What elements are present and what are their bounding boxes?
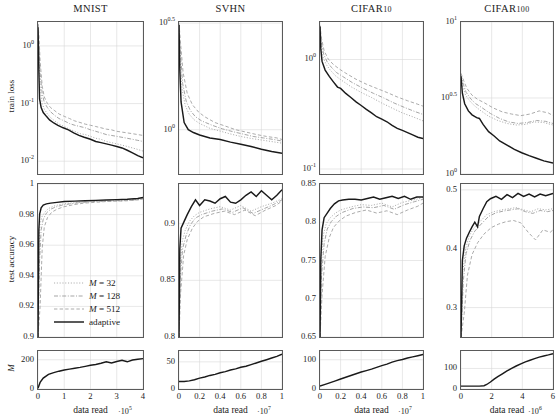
series-dashed xyxy=(179,23,282,139)
series-dashed xyxy=(320,203,423,337)
plot-cifar100-batch-size xyxy=(460,350,554,390)
legend-label-2: M = 512 xyxy=(89,304,120,314)
plot-canvas-svhn-train-loss xyxy=(179,22,282,174)
column-title-svhn: SVHN xyxy=(178,3,283,14)
plot-svhn-test-accuracy xyxy=(178,183,283,338)
series-solid xyxy=(179,354,282,381)
plot-canvas-cifar100-test-accuracy xyxy=(461,184,553,337)
ytick-mnist-train-loss: 100 xyxy=(1,40,34,50)
legend-label-3: adaptive xyxy=(89,317,120,327)
series-solid xyxy=(320,355,423,387)
series-dashdot xyxy=(179,25,282,141)
ytick-cifar100-train-loss: 100.5 xyxy=(424,92,457,102)
ytick-cifar100-train-loss: 101 xyxy=(424,16,457,26)
ytick-cifar10-test-accuracy: 0.7 xyxy=(283,293,316,303)
xaxis-label-cifar100-batch-size: data read xyxy=(454,405,560,415)
xtick-cifar100-batch-size: 4 xyxy=(510,391,534,401)
series-dotted xyxy=(179,25,282,143)
xtick-cifar100-batch-size: 0 xyxy=(449,391,473,401)
series-dashed xyxy=(179,201,282,337)
ylabel-train-loss: train loss xyxy=(6,56,16,136)
series-dotted xyxy=(461,208,553,337)
legend-entry-2: M = 512 xyxy=(54,302,120,315)
ytick-cifar10-batch-size: 100 xyxy=(283,354,316,364)
legend-label-1: M = 128 xyxy=(89,291,120,301)
ytick-cifar10-test-accuracy: 0.65 xyxy=(283,331,316,341)
ylabel-test-accuracy: test accuracy xyxy=(6,219,16,299)
plot-cifar10-test-accuracy xyxy=(319,183,424,338)
ytick-cifar10-train-loss: 10-1 xyxy=(283,163,316,173)
xtick-mnist-batch-size: 0 xyxy=(26,391,50,401)
plot-canvas-cifar100-batch-size xyxy=(461,351,553,389)
legend-entry-1: M = 128 xyxy=(54,289,120,302)
plot-canvas-cifar10-batch-size xyxy=(320,351,423,389)
ytick-cifar10-test-accuracy: 0.8 xyxy=(283,216,316,226)
xaxis-exponent-mnist-batch-size: ·105 xyxy=(118,407,132,416)
legend-entry-3: adaptive xyxy=(54,315,120,328)
legend-entry-0: M = 32 xyxy=(54,276,120,289)
legend-key-dashdot xyxy=(54,292,84,300)
series-dashdot xyxy=(179,200,282,337)
ytick-mnist-test-accuracy: 0.98 xyxy=(1,209,34,219)
series-solid xyxy=(320,196,423,337)
column-title-cifar100: CIFAR100 xyxy=(460,3,554,14)
plot-canvas-svhn-test-accuracy xyxy=(179,184,282,337)
series-dashed xyxy=(320,25,423,106)
plot-canvas-svhn-batch-size xyxy=(179,351,282,389)
ytick-cifar100-train-loss: 100 xyxy=(424,168,457,178)
series-dotted xyxy=(461,75,553,125)
series-dotted xyxy=(179,199,282,337)
plot-canvas-cifar10-train-loss xyxy=(320,22,423,174)
ytick-svhn-test-accuracy: 0.85 xyxy=(142,274,175,284)
ytick-svhn-batch-size: 50 xyxy=(142,356,175,366)
xaxis-exponent-svhn-batch-size: ·107 xyxy=(257,407,271,416)
ytick-cifar100-test-accuracy: 0.3 xyxy=(424,302,457,312)
ytick-svhn-train-loss: 100 xyxy=(142,124,175,134)
plot-cifar10-train-loss xyxy=(319,21,424,175)
series-solid xyxy=(461,76,553,163)
ytick-svhn-test-accuracy: 0.9 xyxy=(142,218,175,228)
plot-canvas-cifar100-train-loss xyxy=(461,22,553,174)
ylabel-batch-size: M xyxy=(6,328,16,408)
ytick-cifar100-test-accuracy: 0.5 xyxy=(424,184,457,194)
legend-key-dotted xyxy=(54,279,84,287)
series-dotted xyxy=(320,27,423,121)
legend-key-dashed xyxy=(54,305,84,313)
xtick-mnist-batch-size: 2 xyxy=(79,391,103,401)
ytick-cifar10-test-accuracy: 0.85 xyxy=(283,178,316,188)
plot-cifar100-test-accuracy xyxy=(460,183,554,338)
series-solid xyxy=(461,193,553,337)
xtick-cifar100-batch-size: 2 xyxy=(480,391,504,401)
ytick-cifar100-batch-size: 100 xyxy=(424,362,457,372)
xaxis-label-svhn-batch-size: data read xyxy=(172,405,289,415)
plot-mnist-batch-size xyxy=(37,350,144,390)
plot-canvas-cifar10-test-accuracy xyxy=(320,184,423,337)
plot-mnist-train-loss xyxy=(37,21,144,175)
column-title-cifar10: CIFAR10 xyxy=(319,3,424,14)
xtick-mnist-batch-size: 1 xyxy=(52,391,76,401)
ytick-svhn-train-loss: 100.5 xyxy=(142,17,175,27)
ytick-mnist-train-loss: 10-2 xyxy=(1,155,34,165)
series-solid xyxy=(320,27,423,139)
legend: M = 32M = 128M = 512adaptive xyxy=(54,276,120,328)
series-solid xyxy=(461,354,553,386)
xaxis-exponent-cifar10-batch-size: ·107 xyxy=(398,407,412,416)
ytick-cifar10-train-loss: 100 xyxy=(283,53,316,63)
ytick-cifar10-test-accuracy: 0.75 xyxy=(283,255,316,265)
ytick-mnist-test-accuracy: 0.92 xyxy=(1,300,34,310)
ytick-cifar100-test-accuracy: 0.4 xyxy=(424,243,457,253)
xaxis-exponent-cifar100-batch-size: ·106 xyxy=(528,407,542,416)
xtick-mnist-batch-size: 3 xyxy=(105,391,129,401)
series-dashdot xyxy=(320,199,423,337)
series-dotted xyxy=(320,198,423,337)
series-dashed xyxy=(461,220,553,337)
plot-svhn-train-loss xyxy=(178,21,283,175)
xaxis-label-cifar10-batch-size: data read xyxy=(313,405,430,415)
column-title-mnist: MNIST xyxy=(37,3,144,14)
plot-canvas-mnist-train-loss xyxy=(38,22,143,174)
ytick-svhn-test-accuracy: 0.8 xyxy=(142,331,175,341)
legend-key-solid xyxy=(54,318,84,326)
ytick-mnist-test-accuracy: 1 xyxy=(1,178,34,188)
plot-cifar10-batch-size xyxy=(319,350,424,390)
